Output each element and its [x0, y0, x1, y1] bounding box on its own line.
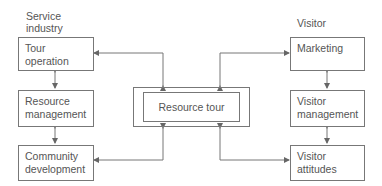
box-label: management [297, 108, 364, 121]
box-label: Community [25, 150, 93, 163]
header-line: Service [26, 10, 63, 22]
center-label: Resource tour [159, 101, 225, 113]
box-visitor-attitudes: Visitor attitudes [290, 145, 365, 181]
header-line: Visitor [297, 17, 326, 29]
box-marketing: Marketing [290, 37, 365, 71]
box-tour-operation: Tour operation [18, 37, 94, 71]
center-box-resource-tour: Resource tour [143, 92, 240, 122]
header-line: industry [26, 22, 63, 34]
box-label: Visitor [297, 95, 364, 108]
box-label: development [25, 163, 93, 176]
box-label: Tour [25, 42, 93, 55]
service-industry-header: Service industry [26, 10, 63, 34]
box-label: attitudes [297, 163, 364, 176]
box-label: Marketing [297, 42, 364, 55]
box-community-development: Community development [18, 145, 94, 181]
visitor-header: Visitor [297, 17, 326, 29]
box-label: Visitor [297, 150, 364, 163]
box-resource-management: Resource management [18, 90, 94, 127]
box-visitor-management: Visitor management [290, 90, 365, 127]
box-label: management [25, 108, 93, 121]
box-label: Resource [25, 95, 93, 108]
box-label: operation [25, 55, 93, 68]
